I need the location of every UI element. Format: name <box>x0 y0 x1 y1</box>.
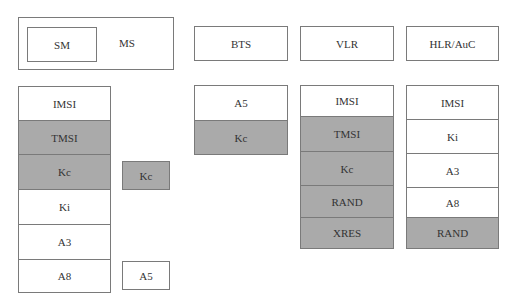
cell-label: Ki <box>447 131 458 143</box>
vlr-cell-imsi: IMSI <box>301 86 393 116</box>
hlr-auc-data-column: IMSI Ki A3 A8 RAND <box>406 85 499 249</box>
ms-label: MS <box>119 37 135 49</box>
bts-header: BTS <box>194 26 288 61</box>
bts-cell-a5: A5 <box>195 86 287 120</box>
vlr-label: VLR <box>336 38 358 50</box>
hlr-auc-label: HLR/AuC <box>430 38 476 50</box>
cell-label: IMSI <box>335 95 358 107</box>
side-box-a5-label: A5 <box>139 270 152 282</box>
cell-label: A5 <box>234 97 247 109</box>
ms-cell-a3: A3 <box>19 224 110 259</box>
vlr-cell-xres: XRES <box>301 217 393 248</box>
hlr-cell-a3: A3 <box>407 153 498 187</box>
cell-label: RAND <box>437 227 468 239</box>
cell-label: Kc <box>341 163 354 175</box>
vlr-cell-tmsi: TMSI <box>301 116 393 151</box>
ms-cell-tmsi: TMSI <box>19 120 110 154</box>
ms-cell-ki: Ki <box>19 189 110 224</box>
side-box-kc-label: Kc <box>140 170 153 182</box>
vlr-header: VLR <box>300 26 394 61</box>
cell-label: A3 <box>58 236 71 248</box>
hlr-auc-header: HLR/AuC <box>406 26 499 61</box>
sm-box: SM <box>27 27 97 62</box>
side-box-a5: A5 <box>122 261 170 290</box>
side-box-kc: Kc <box>122 161 170 190</box>
cell-label: TMSI <box>334 128 360 140</box>
hlr-cell-ki: Ki <box>407 119 498 153</box>
cell-label: Ki <box>59 201 70 213</box>
ms-cell-kc: Kc <box>19 154 110 189</box>
hlr-cell-rand: RAND <box>407 217 498 248</box>
cell-label: TMSI <box>51 132 77 144</box>
cell-label: A8 <box>58 270 71 282</box>
cell-label: Kc <box>235 132 248 144</box>
vlr-cell-rand: RAND <box>301 185 393 217</box>
bts-cell-kc: Kc <box>195 120 287 154</box>
sm-label: SM <box>54 39 70 51</box>
ms-data-column: IMSI TMSI Kc Ki A3 A8 <box>18 86 111 293</box>
cell-label: A8 <box>446 197 459 209</box>
cell-label: IMSI <box>441 97 464 109</box>
cell-label: IMSI <box>53 98 76 110</box>
ms-cell-imsi: IMSI <box>19 87 110 120</box>
bts-label: BTS <box>231 38 251 50</box>
vlr-cell-kc: Kc <box>301 151 393 185</box>
cell-label: A3 <box>446 165 459 177</box>
bts-data-column: A5 Kc <box>194 85 288 155</box>
cell-label: RAND <box>331 196 362 208</box>
hlr-cell-a8: A8 <box>407 187 498 217</box>
ms-cell-a8: A8 <box>19 259 110 292</box>
vlr-data-column: IMSI TMSI Kc RAND XRES <box>300 85 394 249</box>
cell-label: XRES <box>333 227 361 239</box>
cell-label: Kc <box>58 166 71 178</box>
hlr-cell-imsi: IMSI <box>407 86 498 119</box>
